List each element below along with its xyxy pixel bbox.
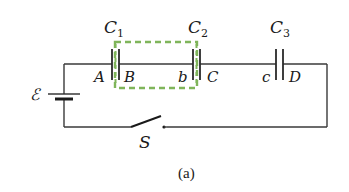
figure-caption: (a) bbox=[178, 165, 195, 182]
circuit-diagram: ℰ S C1 C2 C3 A B b C c D (a) bbox=[0, 0, 349, 192]
node-b-small-label: b bbox=[178, 68, 188, 86]
capacitor-c3-icon bbox=[276, 49, 283, 80]
node-b-label: B bbox=[123, 68, 135, 86]
node-c-small-label: c bbox=[262, 68, 271, 86]
battery-icon bbox=[48, 94, 80, 99]
node-a-label: A bbox=[92, 68, 105, 86]
switch-label: S bbox=[139, 132, 151, 152]
c3-label: C3 bbox=[270, 17, 290, 40]
switch-icon[interactable] bbox=[131, 116, 167, 129]
node-c-label: C bbox=[207, 68, 219, 86]
node-d-label: D bbox=[288, 68, 301, 86]
emf-label: ℰ bbox=[30, 85, 42, 104]
c1-label: C1 bbox=[104, 17, 124, 40]
c2-label: C2 bbox=[188, 17, 208, 40]
